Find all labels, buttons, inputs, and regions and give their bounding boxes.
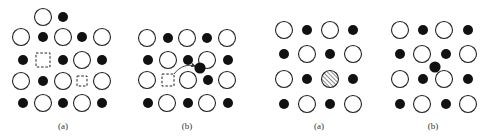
small-ion-filled-dot [463,25,473,35]
small-ion-filled-dot [223,55,233,65]
small-ion-filled-dot [77,32,87,42]
small-ion-filled-dot [183,98,193,108]
large-ion-open-circle [436,71,453,88]
large-ion-open-circle [179,30,196,47]
crystal-defect-figure: (a)(b)(a)(b) [0,0,490,140]
small-ion-filled-dot [302,25,312,35]
large-ion-open-circle [276,22,293,39]
panel-label: (a) [314,121,324,131]
panel-2: (b) [139,30,236,132]
large-ion-open-circle [460,96,477,113]
interstitial-ion-dot [194,62,205,73]
large-ion-open-circle [436,22,453,39]
large-ion-open-circle [199,95,216,112]
large-ion-open-circle [55,29,72,46]
large-ion-open-circle [276,71,293,88]
panel-4: (b) [392,22,477,132]
interstitial-ion-dot [429,61,440,72]
panel-1: (a) [13,9,111,132]
panel-label: (a) [58,121,68,131]
small-ion-filled-dot [97,55,107,65]
small-ion-filled-dot [18,55,28,65]
small-ion-filled-dot [18,98,28,108]
vacancy-dashed-square [162,74,174,86]
small-ion-filled-dot [203,75,213,85]
large-ion-open-circle [414,96,431,113]
substituted-ion-hatched-circle [322,71,339,88]
small-ion-filled-dot [58,55,68,65]
small-ion-filled-dot [143,55,153,65]
small-ion-filled-dot [463,74,473,84]
small-ion-filled-dot [302,74,312,84]
large-ion-open-circle [299,96,316,113]
large-ion-open-circle [159,95,176,112]
small-ion-filled-dot [38,32,48,42]
large-ion-open-circle [139,30,156,47]
large-ion-open-circle [13,29,30,46]
panel-3: (a) [276,22,362,132]
large-ion-open-circle [392,71,409,88]
small-ion-filled-dot [418,25,428,35]
large-ion-open-circle [322,22,339,39]
large-ion-open-circle [219,72,236,89]
small-ion-filled-dot [279,49,289,59]
large-ion-open-circle [13,73,30,90]
small-ion-filled-dot [279,99,289,109]
small-ion-filled-dot [348,74,358,84]
small-ion-filled-dot [395,49,405,59]
small-ion-filled-dot [441,49,451,59]
large-ion-open-circle [94,73,111,90]
large-ion-open-circle [345,46,362,63]
large-ion-open-circle [55,73,72,90]
large-ion-open-circle [139,72,156,89]
small-ion-filled-dot [163,33,173,43]
small-ion-filled-dot [58,12,68,22]
small-ion-filled-dot [223,98,233,108]
large-ion-open-circle [74,95,91,112]
vacancy-dashed-square [36,53,50,67]
large-ion-open-circle [299,46,316,63]
large-ion-open-circle [160,52,177,69]
small-ion-filled-dot [325,99,335,109]
large-ion-open-circle [35,9,52,26]
small-ion-filled-dot [325,49,335,59]
large-ion-open-circle [219,30,236,47]
small-ion-filled-dot [38,76,48,86]
small-ion-filled-dot [183,55,193,65]
panel-label: (b) [182,121,193,131]
small-ion-filled-dot [418,74,428,84]
small-ion-filled-dot [348,25,358,35]
large-ion-open-circle [35,95,52,112]
large-ion-open-circle [460,46,477,63]
small-ion-filled-dot [202,33,212,43]
large-ion-open-circle [392,22,409,39]
large-ion-open-circle [345,96,362,113]
large-ion-open-circle [180,72,197,89]
panel-label: (b) [428,121,439,131]
small-ion-filled-dot [441,99,451,109]
small-ion-filled-dot [97,98,107,108]
vacancy-dashed-square [77,76,87,86]
small-ion-filled-dot [143,98,153,108]
large-ion-open-circle [414,46,431,63]
large-ion-open-circle [94,29,111,46]
large-ion-open-circle [74,52,91,69]
small-ion-filled-dot [395,99,405,109]
small-ion-filled-dot [58,98,68,108]
